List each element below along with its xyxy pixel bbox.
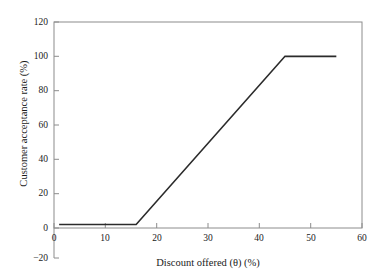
- xtick-label-30: 30: [198, 234, 218, 244]
- data-series-line: [59, 56, 336, 224]
- y-axis-title: Customer acceptance rate (%): [18, 19, 29, 229]
- y-ticks: [54, 22, 59, 228]
- xtick-label-60: 60: [352, 234, 372, 244]
- ytick-label-minus20: −20: [14, 254, 48, 264]
- xtick-label-10: 10: [95, 234, 115, 244]
- xtick-label-20: 20: [147, 234, 167, 244]
- plot-frame: [54, 22, 362, 228]
- chart-figure: 120 100 80 60 40 20 0 −20 0 10 20 30 40 …: [0, 0, 385, 280]
- xtick-label-50: 50: [301, 234, 321, 244]
- x-axis-title: Discount offered (θ) (%): [54, 257, 362, 268]
- x-ticks: [54, 223, 362, 228]
- xtick-label-0: 0: [44, 234, 64, 244]
- xtick-label-40: 40: [249, 234, 269, 244]
